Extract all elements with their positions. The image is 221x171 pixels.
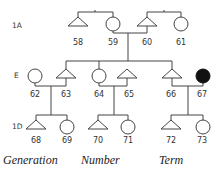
gen-1d-connectors bbox=[36, 115, 203, 121]
generation-label-1d: 1D bbox=[12, 122, 23, 131]
individual-60-triangle-icon bbox=[137, 17, 157, 26]
individual-60-label: 60 bbox=[142, 38, 152, 47]
individual-73-circle-icon bbox=[196, 120, 210, 134]
gen-e-connectors bbox=[35, 61, 203, 115]
individual-64-label: 64 bbox=[94, 90, 104, 99]
generation-label-1a: 1A bbox=[12, 21, 23, 30]
individual-65-triangle-icon bbox=[117, 69, 137, 78]
individual-62-label: 62 bbox=[30, 90, 40, 99]
individual-63-triangle-icon bbox=[56, 69, 76, 78]
individual-72-label: 72 bbox=[166, 136, 176, 145]
individual-66-triangle-icon bbox=[162, 69, 182, 78]
individual-58-triangle-icon bbox=[68, 17, 88, 26]
individual-71-circle-icon bbox=[121, 120, 135, 134]
individual-69-circle-icon bbox=[60, 120, 74, 134]
individual-62-circle-icon bbox=[28, 69, 42, 83]
individual-65-label: 65 bbox=[124, 90, 134, 99]
individual-59-circle-icon bbox=[106, 17, 120, 31]
individual-68-triangle-icon bbox=[26, 120, 46, 129]
individual-64-circle-icon bbox=[92, 69, 106, 83]
individual-70-label: 70 bbox=[93, 136, 103, 145]
individual-68-label: 68 bbox=[31, 136, 41, 145]
individual-67-label: 67 bbox=[197, 90, 207, 99]
individual-71-label: 71 bbox=[123, 136, 133, 145]
individual-66-label: 66 bbox=[166, 90, 176, 99]
pedigree-diagram: 1A E 1D 58 59 60 61 bbox=[0, 0, 221, 171]
individual-70-triangle-icon bbox=[88, 120, 108, 129]
caption-number: Number bbox=[80, 153, 120, 167]
individual-73-label: 73 bbox=[197, 136, 207, 145]
individual-63-label: 63 bbox=[61, 90, 71, 99]
individual-61-circle-icon bbox=[174, 17, 188, 31]
individual-58-label: 58 bbox=[73, 38, 83, 47]
individual-67-affected-circle-icon bbox=[196, 69, 210, 83]
individual-59-label: 59 bbox=[108, 38, 118, 47]
individual-69-label: 69 bbox=[62, 136, 72, 145]
individual-61-label: 61 bbox=[176, 38, 186, 47]
individual-72-triangle-icon bbox=[161, 120, 181, 129]
caption-term: Term bbox=[159, 153, 184, 167]
generation-label-e: E bbox=[14, 71, 19, 80]
caption-generation: Generation bbox=[3, 153, 58, 167]
gen1a-connectors bbox=[78, 10, 181, 61]
